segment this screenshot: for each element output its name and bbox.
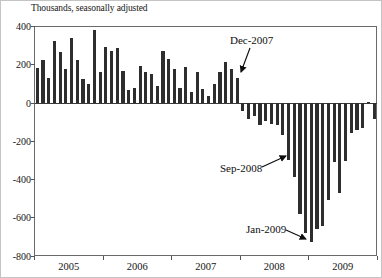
bar-2005-02 [41, 60, 44, 103]
bar-2005-01 [36, 68, 39, 103]
bar-2008-11 [298, 103, 301, 214]
x-year-label-2007: 2007 [184, 261, 228, 272]
bar-2007-10 [224, 62, 227, 103]
x-tick-mark [240, 256, 241, 260]
bar-2007-09 [218, 72, 221, 103]
y-tick-label--400: -400 [1, 174, 31, 185]
plot-frame [34, 26, 377, 256]
bar-2007-07 [207, 96, 210, 103]
x-tick-mark [34, 256, 35, 260]
bar-2006-02 [110, 51, 113, 103]
bar-2009-03 [321, 103, 324, 226]
bar-2008-03 [253, 103, 256, 116]
annotation-Sep-2008: Sep-2008 [220, 162, 262, 174]
bar-2006-12 [167, 59, 170, 103]
bar-2005-10 [87, 84, 90, 103]
bar-2006-07 [139, 66, 142, 103]
bar-2008-05 [264, 103, 267, 121]
bar-2007-08 [213, 84, 216, 103]
bar-2009-08 [350, 103, 353, 133]
bar-2009-09 [355, 103, 358, 130]
bar-2005-12 [99, 72, 102, 103]
bar-2007-03 [184, 67, 187, 103]
bar-2009-12 [373, 103, 376, 119]
bar-2007-01 [173, 69, 176, 103]
bar-2008-02 [247, 103, 250, 119]
x-year-label-2008: 2008 [252, 261, 296, 272]
x-year-label-2005: 2005 [47, 261, 91, 272]
bar-2005-07 [70, 38, 73, 103]
y-tick-mark [31, 179, 35, 180]
bar-2008-10 [293, 103, 296, 177]
bar-2008-12 [304, 103, 307, 233]
x-year-label-2006: 2006 [115, 261, 159, 272]
annotation-Jan-2009: Jan-2009 [246, 223, 286, 235]
employment-change-chart: Thousands, seasonally adjusted 4002000-2… [0, 0, 382, 278]
bar-2007-12 [236, 78, 239, 103]
bar-2007-05 [196, 72, 199, 103]
bar-2008-04 [258, 103, 261, 125]
x-year-label-2009: 2009 [321, 261, 365, 272]
bar-2007-11 [230, 69, 233, 103]
bar-2007-06 [201, 89, 204, 103]
y-tick-mark [31, 64, 35, 65]
bar-2006-09 [150, 74, 153, 103]
bar-2009-11 [367, 102, 370, 103]
y-tick-label--800: -800 [1, 251, 31, 262]
bar-2005-05 [59, 52, 62, 103]
bar-2006-10 [156, 86, 159, 103]
bar-2009-07 [344, 103, 347, 161]
y-tick-label-400: 400 [1, 21, 31, 32]
bar-2006-03 [116, 48, 119, 103]
bar-2005-11 [93, 30, 96, 103]
bar-2008-08 [281, 103, 284, 135]
y-tick-mark [31, 26, 35, 27]
bar-2009-06 [338, 103, 341, 193]
bar-2005-08 [76, 60, 79, 103]
bar-2008-09 [287, 103, 290, 160]
y-tick-mark [31, 103, 35, 104]
bar-2008-07 [276, 103, 279, 125]
y-tick-label-0: 0 [1, 98, 31, 109]
y-tick-label-200: 200 [1, 59, 31, 70]
y-tick-label--600: -600 [1, 212, 31, 223]
bar-2006-01 [104, 47, 107, 103]
bar-2008-06 [270, 103, 273, 124]
bar-2007-02 [178, 88, 181, 103]
bar-2009-01 [310, 103, 313, 242]
bar-2006-11 [161, 51, 164, 103]
bar-2005-03 [47, 78, 50, 103]
x-tick-mark [308, 256, 309, 260]
bar-2005-09 [81, 79, 84, 103]
bar-2009-10 [361, 103, 364, 128]
chart-title: Thousands, seasonally adjusted [31, 3, 148, 13]
y-tick-mark [31, 217, 35, 218]
y-tick-label--200: -200 [1, 136, 31, 147]
bar-2006-06 [133, 88, 136, 103]
bar-2005-06 [64, 69, 67, 103]
x-tick-mark [103, 256, 104, 260]
x-tick-mark [377, 256, 378, 260]
bar-2006-08 [144, 72, 147, 103]
bar-2009-04 [327, 103, 330, 200]
annotation-Dec-2007: Dec-2007 [230, 34, 273, 46]
bar-2006-04 [121, 71, 124, 103]
bar-2008-01 [241, 103, 244, 111]
y-tick-mark [31, 141, 35, 142]
bar-2009-05 [333, 103, 336, 162]
bar-2005-04 [53, 41, 56, 103]
bar-2007-04 [190, 92, 193, 103]
bar-2009-02 [315, 103, 318, 229]
x-tick-mark [171, 256, 172, 260]
bar-2006-05 [127, 90, 130, 103]
